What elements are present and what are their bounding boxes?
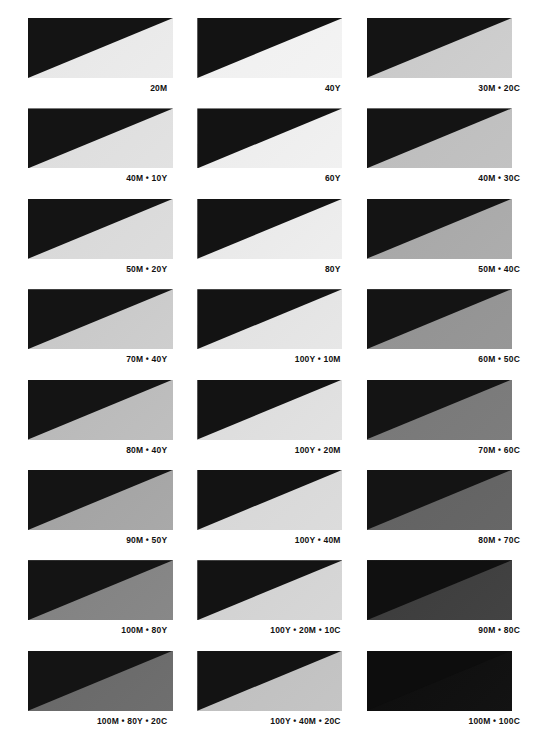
swatch-label: 100Y • 20M • 10C (185, 625, 340, 636)
swatch-label: 100Y • 40M (185, 535, 340, 546)
swatch-label: 100Y • 10M (185, 354, 340, 365)
swatch-cell[interactable]: 30M • 20C (357, 18, 528, 108)
swatch-label: 90M • 80C (357, 625, 520, 636)
swatch-label: 50M • 20Y (14, 264, 167, 275)
swatch-label: 100Y • 20M (185, 445, 340, 456)
swatch-cell[interactable]: 100Y • 10M (185, 289, 356, 379)
color-swatch[interactable] (28, 380, 173, 440)
color-swatch[interactable] (367, 380, 512, 440)
color-swatch[interactable] (28, 470, 173, 530)
swatch-cell[interactable]: 40M • 10Y (14, 108, 185, 198)
swatch-label: 70M • 40Y (14, 354, 167, 365)
color-swatch[interactable] (197, 18, 342, 78)
color-swatch[interactable] (197, 380, 342, 440)
color-swatch[interactable] (28, 108, 173, 168)
swatch-cell[interactable]: 40Y (185, 18, 356, 108)
swatch-cell[interactable]: 100Y • 20M (185, 380, 356, 470)
swatch-grid: 20M40Y30M • 20C40M • 10Y60Y40M • 30C50M … (0, 0, 542, 755)
color-swatch[interactable] (28, 289, 173, 349)
swatch-label: 40Y (185, 83, 340, 94)
swatch-label: 20M (14, 83, 167, 94)
color-swatch[interactable] (197, 651, 342, 711)
swatch-cell[interactable]: 80Y (185, 199, 356, 289)
swatch-cell[interactable]: 50M • 20Y (14, 199, 185, 289)
cmyk-tint-chart-sheet: 20M40Y30M • 20C40M • 10Y60Y40M • 30C50M … (0, 0, 542, 755)
swatch-label: 30M • 20C (357, 83, 520, 94)
swatch-cell[interactable]: 90M • 80C (357, 560, 528, 650)
swatch-cell[interactable]: 70M • 60C (357, 380, 528, 470)
color-swatch[interactable] (197, 470, 342, 530)
swatch-label: 90M • 50Y (14, 535, 167, 546)
color-swatch[interactable] (367, 470, 512, 530)
swatch-cell[interactable]: 20M (14, 18, 185, 108)
color-swatch[interactable] (197, 199, 342, 259)
swatch-label: 50M • 40C (357, 264, 520, 275)
swatch-label: 100M • 100C (357, 716, 520, 727)
swatch-cell[interactable]: 100M • 80Y • 20C (14, 651, 185, 741)
swatch-label: 40M • 10Y (14, 173, 167, 184)
swatch-cell[interactable]: 100Y • 40M • 20C (185, 651, 356, 741)
swatch-label: 100Y • 40M • 20C (185, 716, 340, 727)
swatch-label: 100M • 80Y (14, 625, 167, 636)
swatch-cell[interactable]: 70M • 40Y (14, 289, 185, 379)
swatch-label: 80M • 70C (357, 535, 520, 546)
color-swatch[interactable] (367, 108, 512, 168)
swatch-cell[interactable]: 60M • 50C (357, 289, 528, 379)
swatch-label: 80M • 40Y (14, 445, 167, 456)
color-swatch[interactable] (28, 199, 173, 259)
swatch-label: 60Y (185, 173, 340, 184)
color-swatch[interactable] (367, 289, 512, 349)
swatch-label: 100M • 80Y • 20C (14, 716, 167, 727)
color-swatch[interactable] (197, 289, 342, 349)
swatch-cell[interactable]: 50M • 40C (357, 199, 528, 289)
swatch-label: 40M • 30C (357, 173, 520, 184)
color-swatch[interactable] (367, 18, 512, 78)
swatch-cell[interactable]: 90M • 50Y (14, 470, 185, 560)
swatch-label: 70M • 60C (357, 445, 520, 456)
swatch-cell[interactable]: 60Y (185, 108, 356, 198)
swatch-cell[interactable]: 100M • 100C (357, 651, 528, 741)
swatch-cell[interactable]: 100M • 80Y (14, 560, 185, 650)
swatch-cell[interactable]: 80M • 70C (357, 470, 528, 560)
color-swatch[interactable] (28, 651, 173, 711)
color-swatch[interactable] (367, 651, 512, 711)
color-swatch[interactable] (197, 108, 342, 168)
swatch-cell[interactable]: 100Y • 40M (185, 470, 356, 560)
color-swatch[interactable] (367, 199, 512, 259)
color-swatch[interactable] (367, 560, 512, 620)
swatch-label: 60M • 50C (357, 354, 520, 365)
swatch-cell[interactable]: 40M • 30C (357, 108, 528, 198)
swatch-cell[interactable]: 80M • 40Y (14, 380, 185, 470)
color-swatch[interactable] (28, 560, 173, 620)
color-swatch[interactable] (197, 560, 342, 620)
swatch-cell[interactable]: 100Y • 20M • 10C (185, 560, 356, 650)
swatch-label: 80Y (185, 264, 340, 275)
color-swatch[interactable] (28, 18, 173, 78)
